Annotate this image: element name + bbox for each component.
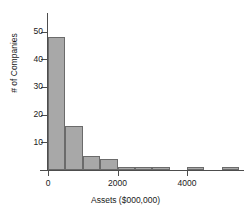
x-tick-mark bbox=[187, 171, 188, 176]
x-axis-title: Assets ($000,000) bbox=[0, 195, 251, 205]
x-tick-mark bbox=[48, 171, 49, 176]
y-tick-label: 20 bbox=[34, 110, 43, 119]
x-tick-label: 0 bbox=[28, 179, 68, 188]
histogram-bar bbox=[65, 126, 82, 170]
y-tick-label: 40 bbox=[34, 55, 43, 64]
histogram-bar bbox=[187, 167, 204, 170]
histogram-bar bbox=[48, 37, 65, 170]
histogram-chart: # of Companies Assets ($000,000) 1020304… bbox=[0, 0, 251, 215]
x-tick-label: 4000 bbox=[167, 179, 207, 188]
x-axis-line bbox=[40, 170, 244, 171]
histogram-bar bbox=[135, 167, 152, 170]
histogram-bar bbox=[100, 159, 117, 170]
histogram-bar bbox=[152, 167, 169, 170]
histogram-bar bbox=[222, 167, 239, 170]
x-tick-label: 2000 bbox=[98, 179, 138, 188]
x-tick-mark bbox=[118, 171, 119, 176]
y-tick-label: 10 bbox=[34, 138, 43, 147]
y-tick-label: 30 bbox=[34, 82, 43, 91]
y-tick-label: 50 bbox=[34, 27, 43, 36]
histogram-bar bbox=[118, 167, 135, 170]
y-axis-title: # of Companies bbox=[9, 15, 19, 111]
histogram-bar bbox=[83, 156, 100, 170]
